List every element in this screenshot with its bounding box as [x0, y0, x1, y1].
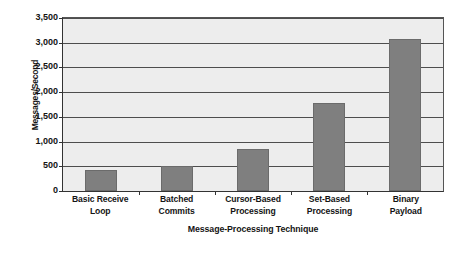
bar[interactable]: [389, 39, 421, 191]
x-axis-tick-label: Set-BasedProcessing: [291, 194, 367, 217]
bar[interactable]: [161, 166, 193, 191]
bar-series: [63, 18, 443, 191]
bar-slot: [63, 18, 139, 191]
bar-slot: [367, 18, 443, 191]
bar-slot: [139, 18, 215, 191]
bar-slot: [291, 18, 367, 191]
y-axis-tick-mark: [59, 191, 63, 192]
x-axis-tick-label-line: Processing: [291, 206, 367, 218]
y-axis-tick-label: 500: [24, 160, 58, 170]
x-axis-tick-label: BinaryPayload: [368, 194, 444, 217]
y-axis-tick-label: 0: [24, 185, 58, 195]
x-axis-tick-label-line: Binary: [368, 194, 444, 206]
x-axis-tick-labels: Basic ReceiveLoopBatchedCommitsCursor-Ba…: [62, 194, 444, 217]
bar-slot: [215, 18, 291, 191]
x-axis-tick-label-line: Batched: [138, 194, 214, 206]
x-axis-tick-label-line: Basic Receive: [62, 194, 138, 206]
x-axis-tick-label-line: Set-Based: [291, 194, 367, 206]
x-axis-title: Message-Processing Technique: [62, 224, 444, 234]
y-axis-tick-label: 1,000: [24, 136, 58, 146]
x-axis-tick-label-line: Processing: [215, 206, 291, 218]
x-axis-tick-label-line: Cursor-Based: [215, 194, 291, 206]
y-axis-tick-label: 3,000: [24, 37, 58, 47]
x-axis-tick-label-line: Loop: [62, 206, 138, 218]
x-axis-tick-label-line: Payload: [368, 206, 444, 218]
bar[interactable]: [313, 103, 345, 191]
y-axis-tick-label: 3,500: [24, 12, 58, 22]
y-axis-tick-labels: 05001,0001,5002,0002,5003,0003,500: [24, 10, 58, 198]
bar-chart: Messages/Second 05001,0001,5002,0002,500…: [0, 0, 464, 254]
bar[interactable]: [237, 149, 269, 192]
plot-area: [62, 17, 444, 192]
y-axis-tick-label: 2,000: [24, 86, 58, 96]
y-axis-tick-label: 1,500: [24, 111, 58, 121]
bar[interactable]: [85, 170, 117, 191]
x-axis-tick-label: BatchedCommits: [138, 194, 214, 217]
y-axis-tick-label: 2,500: [24, 61, 58, 71]
x-axis-tick-label: Basic ReceiveLoop: [62, 194, 138, 217]
x-axis-tick-label-line: Commits: [138, 206, 214, 218]
x-axis-tick-label: Cursor-BasedProcessing: [215, 194, 291, 217]
